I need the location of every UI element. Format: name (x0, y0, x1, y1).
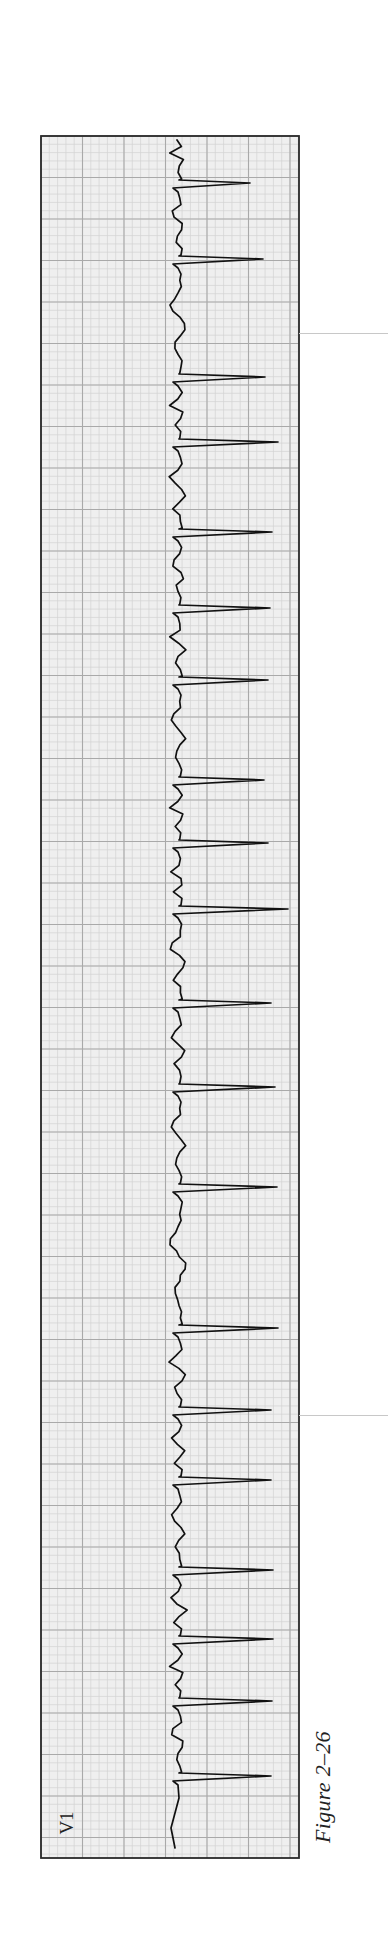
scan-artifact-line (299, 1415, 388, 1416)
figure-page: V1 Figure 2–26 (0, 0, 388, 1950)
lead-label-text: V1 (56, 1811, 78, 1834)
figure-caption-text: Figure 2–26 (310, 1731, 336, 1843)
ecg-paper (41, 136, 299, 1858)
scan-artifact-line (299, 333, 388, 334)
lead-label: V1 (52, 1800, 82, 1846)
figure-caption: Figure 2–26 (303, 1712, 343, 1862)
ecg-strip (0, 0, 388, 1950)
